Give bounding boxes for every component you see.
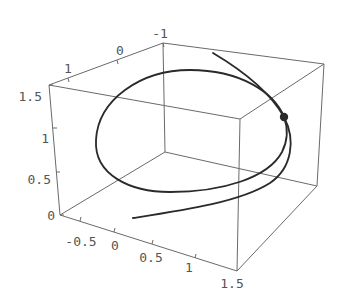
x-axis-labels: -0.5 0 0.5 1 1.5 <box>65 234 243 291</box>
orbit-curve <box>96 70 287 192</box>
z-tick-label: 1 <box>41 131 49 146</box>
curves <box>96 53 291 218</box>
box-edge-bottom-right <box>237 186 317 271</box>
z-tick-label: 1.5 <box>19 89 42 104</box>
z-tick-label: 0 <box>47 208 55 223</box>
x-tick-label: -0.5 <box>65 234 96 249</box>
highlighted-point <box>280 113 288 121</box>
y-tick-label: 1 <box>64 61 72 76</box>
x-tick-label: 1.5 <box>220 276 243 291</box>
y-tick-label: 0 <box>116 43 124 58</box>
x-tick-label: 0.5 <box>139 250 162 265</box>
arc-curve <box>133 53 291 218</box>
box-edge-bottom-left <box>60 152 165 215</box>
x-tick-label: 0 <box>111 238 119 253</box>
z-axis-labels: 1.5 1 0.5 0 <box>19 89 55 223</box>
y-axis-labels: 1 0 -1 <box>64 26 168 76</box>
box-edge-vertical-right <box>317 64 324 186</box>
z-tick-label: 0.5 <box>28 172 51 187</box>
box-edge-vertical-back <box>163 43 165 152</box>
box-edge-top-front <box>49 85 240 119</box>
y-tick-label: -1 <box>152 26 168 41</box>
box-edge-top-back <box>163 43 324 64</box>
x-tick-label: 1 <box>185 260 193 275</box>
box-edge-vertical-front <box>237 119 240 271</box>
3d-plot: 1.5 1 0.5 0 1 0 -1 -0.5 0 0.5 1 1.5 <box>0 0 342 306</box>
box-edge-vertical-left <box>49 85 60 215</box>
